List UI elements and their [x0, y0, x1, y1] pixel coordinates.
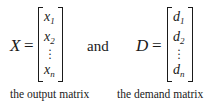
vertical-ellipsis-icon: ···: [47, 48, 53, 60]
right-bracket: [188, 7, 193, 82]
matrix-x-symbol: X: [10, 37, 20, 54]
caption-demand-matrix: the demand matrix: [117, 89, 203, 101]
right-bracket: [58, 7, 63, 82]
matrix-entry: xn: [44, 63, 55, 79]
left-bracket: [167, 7, 172, 82]
left-bracket: [38, 7, 43, 82]
vertical-ellipsis-icon: ···: [176, 48, 182, 60]
matrix-entry: x1: [44, 10, 55, 26]
caption-output-matrix: the output matrix: [10, 89, 89, 101]
matrix-d-symbol: D: [136, 37, 148, 54]
connector-text: and: [87, 39, 109, 54]
matrix-entry: dn: [173, 63, 185, 79]
equals-sign: =: [24, 37, 34, 54]
equals-sign: =: [152, 37, 162, 54]
matrix-entry: d1: [173, 10, 185, 26]
